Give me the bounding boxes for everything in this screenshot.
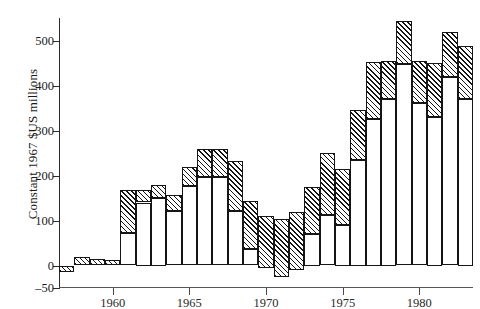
- bar: [458, 18, 473, 288]
- bar: [274, 18, 289, 288]
- y-tick-label: 400: [35, 78, 54, 93]
- bar-segment-open: [136, 203, 151, 266]
- bar: [366, 18, 381, 288]
- bar-segment-hatched: [212, 149, 227, 178]
- bar: [396, 18, 411, 288]
- bar-segment-open: [182, 186, 197, 265]
- bar-segment-hatched: [105, 260, 120, 265]
- bar: [105, 18, 120, 288]
- bar: [120, 18, 135, 288]
- x-tick: [419, 288, 420, 295]
- bar-segment-hatched: [136, 190, 151, 203]
- bar-segment-open: [304, 234, 319, 266]
- bar: [442, 18, 457, 288]
- bar-segment-hatched: [458, 46, 473, 99]
- bar-segment-hatched: [304, 187, 319, 234]
- bar-segment-open: [120, 233, 135, 265]
- bar-segment-hatched: [289, 212, 304, 270]
- bar-segment-open: [228, 211, 243, 266]
- x-tick-label: 1965: [177, 296, 202, 309]
- bar: [136, 18, 151, 288]
- bar-segment-open: [151, 198, 166, 266]
- bar: [182, 18, 197, 288]
- bar-segment-open: [396, 64, 411, 265]
- bar-segment-hatched: [151, 185, 166, 198]
- bar: [212, 18, 227, 288]
- bar: [412, 18, 427, 288]
- bar: [90, 18, 105, 288]
- y-tick-label: –50: [35, 281, 54, 296]
- bar-segment-open: [350, 160, 365, 266]
- bar-segment-hatched: [74, 257, 89, 265]
- plot-area: –500100200300400500 19601965197019751980: [59, 18, 473, 288]
- bar: [228, 18, 243, 288]
- bar-segment-open: [335, 225, 350, 266]
- bar-segment-open: [366, 119, 381, 265]
- bar-segment-hatched: [335, 169, 350, 225]
- x-tick: [113, 288, 114, 295]
- bar: [243, 18, 258, 288]
- bar: [350, 18, 365, 288]
- bar-segment-open: [412, 103, 427, 266]
- bar-segment-open: [197, 177, 212, 265]
- x-tick: [343, 288, 344, 295]
- bar: [304, 18, 319, 288]
- bar-segment-open: [458, 99, 473, 266]
- bar-segment-open: [166, 211, 181, 266]
- y-tick-label: 100: [35, 213, 54, 228]
- bar: [59, 18, 74, 288]
- x-tick-label: 1980: [407, 296, 432, 309]
- bar: [335, 18, 350, 288]
- bar: [289, 18, 304, 288]
- bar-segment-hatched: [243, 201, 258, 250]
- y-tick-label: 0: [48, 258, 54, 273]
- bar: [427, 18, 442, 288]
- bar-segment-hatched: [442, 32, 457, 78]
- bar: [320, 18, 335, 288]
- y-tick-label: 300: [35, 123, 54, 138]
- bar-segment-open: [442, 77, 457, 265]
- bar-segment-hatched: [427, 63, 442, 117]
- bar-segment-open: [427, 117, 442, 266]
- bar-segment-hatched: [166, 195, 181, 210]
- x-tick-label: 1960: [100, 296, 125, 309]
- bar-segment-open: [243, 249, 258, 265]
- bar: [381, 18, 396, 288]
- bar-segment-hatched: [381, 61, 396, 99]
- bar-segment-open: [320, 215, 335, 266]
- figure: Constant 1967 $US millions –500100200300…: [0, 0, 480, 309]
- bar: [197, 18, 212, 288]
- bar-segment-hatched: [258, 216, 273, 268]
- bar-segment-hatched: [396, 21, 411, 64]
- y-tick-label: 200: [35, 168, 54, 183]
- x-tick-label: 1975: [330, 296, 355, 309]
- bar-segment-hatched: [366, 62, 381, 120]
- bar-segment-hatched: [350, 110, 365, 160]
- bar-segment-open: [212, 177, 227, 265]
- x-tick: [189, 288, 190, 295]
- bar-segment-hatched: [59, 266, 74, 272]
- bar-segment-hatched: [120, 190, 135, 233]
- bar-segment-hatched: [320, 153, 335, 214]
- bar-segment-hatched: [412, 61, 427, 102]
- bar-segment-hatched: [90, 259, 105, 265]
- bar-segment-hatched: [182, 167, 197, 187]
- x-tick-label: 1970: [254, 296, 279, 309]
- bar-segment-hatched: [274, 219, 289, 278]
- bar: [166, 18, 181, 288]
- bar: [258, 18, 273, 288]
- bar: [151, 18, 166, 288]
- bar-segment-hatched: [228, 161, 243, 211]
- bar-segment-hatched: [197, 149, 212, 177]
- x-tick: [266, 288, 267, 295]
- bar: [74, 18, 89, 288]
- y-tick-label: 500: [35, 33, 54, 48]
- bar-segment-open: [381, 99, 396, 266]
